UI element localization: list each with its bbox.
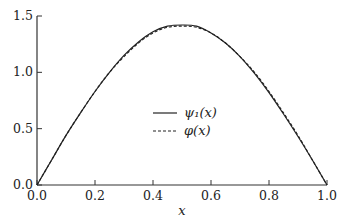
y-tick-label: 1.5 <box>13 8 33 23</box>
x-tick-label: 0.6 <box>201 188 221 203</box>
legend: ψ₁(x)φ(x) <box>153 105 217 138</box>
psi1-legend-label: ψ₁(x) <box>184 105 217 120</box>
phi-legend-label: φ(x) <box>184 123 211 138</box>
x-axis-label: x <box>178 203 186 218</box>
phi-series-line <box>37 26 327 185</box>
line-chart: 0.00.20.40.60.81.00.00.51.01.5x ψ₁(x)φ(x… <box>0 0 347 222</box>
x-tick-label: 0.4 <box>143 188 163 203</box>
x-tick-label: 0.8 <box>259 188 279 203</box>
y-tick-label: 0.0 <box>13 177 33 192</box>
y-tick-label: 1.0 <box>13 64 33 79</box>
psi1-series-line <box>37 25 327 185</box>
x-tick-label: 0.2 <box>85 188 105 203</box>
plot-area <box>37 25 327 185</box>
x-tick-label: 1.0 <box>317 188 337 203</box>
y-tick-label: 0.5 <box>13 121 33 136</box>
